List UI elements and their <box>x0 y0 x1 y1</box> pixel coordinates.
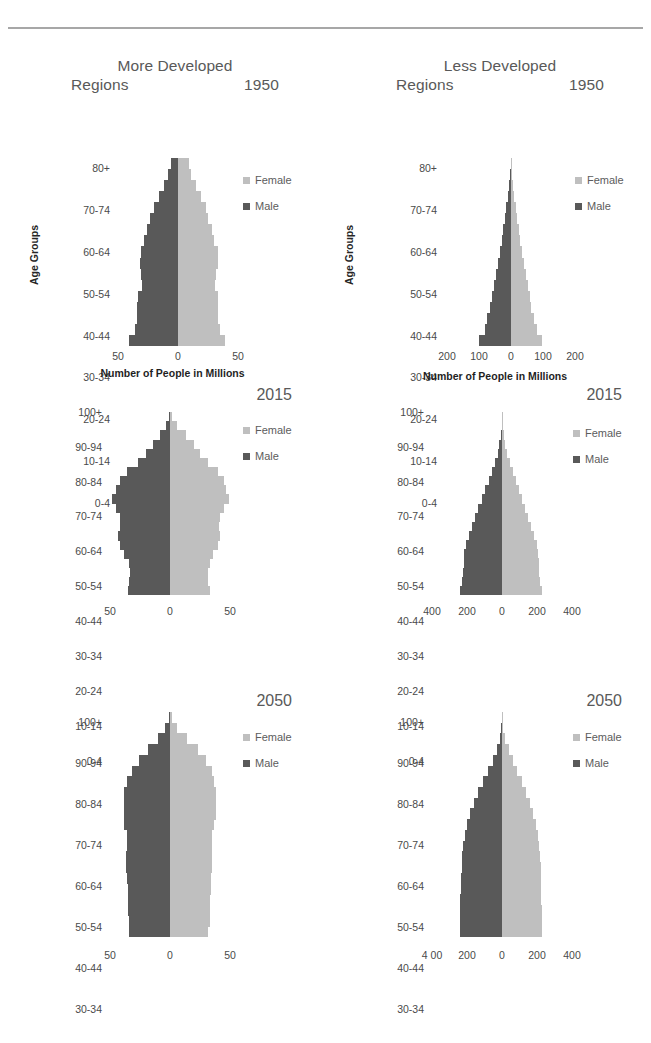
male-bar <box>128 905 170 916</box>
chart-title-region-line1: Less Developed <box>380 56 620 75</box>
x-axis-tick-label: 100 <box>470 351 488 362</box>
female-bar <box>170 412 172 422</box>
female-bar <box>178 169 191 180</box>
pyramid-bar-row <box>432 712 572 723</box>
y-axis-tick-label: 100+ <box>78 407 102 418</box>
chart-title-region-line2: Regions <box>396 75 454 94</box>
legend-item-female[interactable]: Female <box>575 175 624 186</box>
male-bar <box>494 280 511 291</box>
x-axis-tick-label: 0 <box>499 606 505 617</box>
y-axis-tick-label: 50-54 <box>397 581 424 592</box>
male-bar <box>128 586 170 596</box>
male-bar <box>469 531 502 541</box>
legend-item-female[interactable]: Female <box>243 425 292 436</box>
pyramid-bar-row <box>110 819 230 830</box>
female-bar <box>170 522 219 532</box>
female-bar <box>502 531 534 541</box>
male-bar <box>129 558 170 568</box>
female-bar <box>170 449 200 459</box>
male-bar <box>144 235 178 246</box>
population-pyramid-figure: More DevelopedRegions195080+70-7460-6450… <box>0 0 651 1043</box>
chart-panel-more-developed-2050: 2050100+90-9480-8470-7460-6450-5440-4430… <box>0 670 325 980</box>
female-bar <box>502 430 504 440</box>
female-bar <box>178 191 201 202</box>
female-bar <box>502 504 525 514</box>
x-axis-tick-label: 200 <box>528 606 546 617</box>
female-bar <box>502 862 541 873</box>
female-bar <box>178 235 214 246</box>
female-bar <box>511 213 517 224</box>
pyramid-bar-row <box>118 335 238 346</box>
male-bar <box>137 302 178 313</box>
pyramid-bar-row <box>432 883 572 894</box>
pyramid-bar-row <box>432 798 572 809</box>
female-bar <box>502 586 542 596</box>
pyramid-bar-row <box>110 467 230 477</box>
pyramid-bar-row <box>432 568 572 578</box>
male-bar <box>127 467 170 477</box>
y-axis-tick-label: 70-74 <box>397 840 424 851</box>
legend-label: Male <box>255 758 279 769</box>
female-bar <box>511 324 537 335</box>
female-bar <box>502 830 538 841</box>
male-bar <box>485 324 511 335</box>
male-bar <box>126 851 170 862</box>
male-bar <box>126 862 170 873</box>
pyramid-bar-row <box>432 894 572 905</box>
pyramid-bar-row <box>432 531 572 541</box>
legend-item-male[interactable]: Male <box>243 758 279 769</box>
pyramid-bar-row <box>432 421 572 431</box>
female-bar <box>178 280 215 291</box>
female-bar <box>170 830 212 841</box>
pyramid-bar-row <box>432 916 572 927</box>
female-bar <box>170 440 194 450</box>
male-bar <box>478 787 502 798</box>
y-axis-tick-label: 60-64 <box>397 881 424 892</box>
y-axis-labels: 100+90-9480-8470-7460-6450-5440-4430-342… <box>0 712 102 937</box>
pyramid-bar-row <box>447 213 575 224</box>
pyramid-bar-row <box>118 291 238 302</box>
legend-item-female[interactable]: Female <box>573 428 622 439</box>
female-swatch-icon <box>575 177 582 184</box>
pyramid-bar-row <box>118 224 238 235</box>
legend-item-male[interactable]: Male <box>573 454 609 465</box>
legend-item-female[interactable]: Female <box>243 732 292 743</box>
male-bar <box>462 862 502 873</box>
pyramid-bar-row <box>447 258 575 269</box>
pyramid-bar-row <box>432 723 572 734</box>
male-bar <box>467 819 502 830</box>
legend-item-male[interactable]: Male <box>243 451 279 462</box>
female-swatch-icon <box>243 734 250 741</box>
legend-item-male[interactable]: Male <box>243 201 279 212</box>
female-bar <box>170 926 208 937</box>
male-bar <box>460 905 502 916</box>
male-bar <box>127 873 170 884</box>
pyramid-bar-row <box>118 169 238 180</box>
pyramid-bar-row <box>110 412 230 422</box>
male-bar <box>124 808 170 819</box>
female-bar <box>502 808 533 819</box>
y-axis-tick-label: 90-94 <box>75 758 102 769</box>
male-bar <box>493 755 502 766</box>
x-axis-tick-label: 4 00 <box>422 950 442 961</box>
plot-area <box>110 403 230 595</box>
female-bar <box>511 302 531 313</box>
legend-item-male[interactable]: Male <box>575 201 611 212</box>
legend-item-female[interactable]: Female <box>243 175 292 186</box>
pyramid-bar-row <box>110 558 230 568</box>
pyramid-bar-row <box>110 430 230 440</box>
pyramid-bar-row <box>432 485 572 495</box>
chart-year: 2015 <box>530 386 622 404</box>
female-bar <box>170 558 210 568</box>
male-bar <box>502 235 511 246</box>
female-bar <box>502 467 513 477</box>
male-bar <box>474 798 502 809</box>
pyramid-bar-row <box>110 421 230 431</box>
female-bar <box>170 513 220 523</box>
female-bar <box>502 851 540 862</box>
legend-item-male[interactable]: Male <box>573 758 609 769</box>
female-bar <box>170 744 198 755</box>
x-axis-tick-label: 200 <box>458 606 476 617</box>
legend-item-female[interactable]: Female <box>573 732 622 743</box>
pyramid-bar-row <box>432 787 572 798</box>
